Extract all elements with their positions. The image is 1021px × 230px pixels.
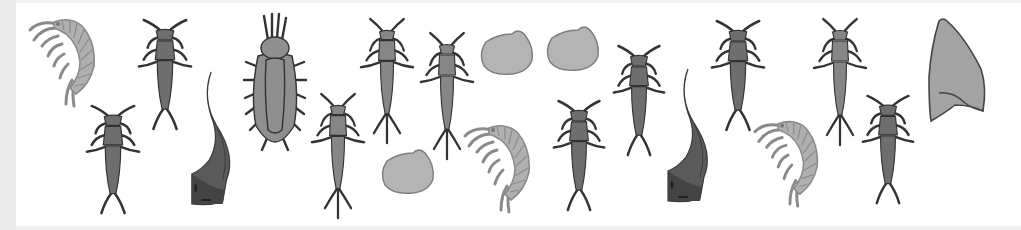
- clam-shell-icon: [478, 28, 536, 76]
- illustration-canvas: [0, 0, 1021, 230]
- amphipod-figure: [26, 14, 100, 108]
- stonefly-icon: [611, 44, 667, 158]
- beetle-larva-icon: [244, 14, 306, 152]
- stonefly-figure: [136, 18, 194, 132]
- stonefly-figure: [860, 94, 916, 206]
- clam-shell-icon: [544, 24, 602, 72]
- top-margin-strip: [16, 0, 1021, 3]
- mayfly-icon: [359, 19, 415, 145]
- clam-figure: [379, 147, 437, 195]
- clam-shell-icon: [379, 147, 437, 195]
- larva-figure: [244, 14, 306, 152]
- amphipod-figure: [461, 120, 535, 214]
- leech-icon: [188, 70, 240, 210]
- left-margin-strip: [0, 0, 16, 230]
- stonefly-figure: [84, 104, 142, 216]
- mayfly-figure: [310, 94, 366, 220]
- leech-figure: [188, 70, 240, 210]
- stonefly-icon: [84, 104, 142, 216]
- amphipod-icon: [461, 120, 535, 214]
- stonefly-figure: [611, 44, 667, 158]
- bottom-margin-strip: [16, 226, 1021, 230]
- mayfly-icon: [310, 94, 366, 220]
- snail-shell-figure: [925, 17, 987, 123]
- stonefly-icon: [551, 99, 607, 213]
- amphipod-icon: [26, 14, 100, 108]
- stonefly-icon: [860, 94, 916, 206]
- stonefly-icon: [136, 18, 194, 132]
- limpet-shell-icon: [925, 17, 987, 123]
- clam-figure: [478, 28, 536, 76]
- stonefly-figure: [551, 99, 607, 213]
- mayfly-figure: [359, 19, 415, 145]
- clam-figure: [544, 24, 602, 72]
